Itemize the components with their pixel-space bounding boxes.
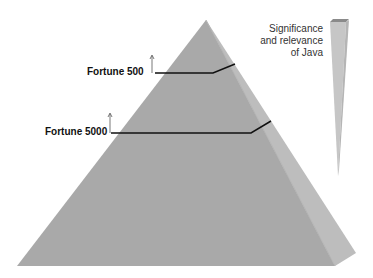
fortune-500-label: Fortune 500 <box>87 66 144 77</box>
java-wedge <box>330 19 349 176</box>
label-line: Significance <box>255 23 323 35</box>
label-line: of Java <box>255 47 323 59</box>
fortune-5000-label: Fortune 5000 <box>45 126 107 137</box>
label-line: and relevance <box>255 35 323 47</box>
java-significance-label: Significance and relevance of Java <box>255 23 323 59</box>
